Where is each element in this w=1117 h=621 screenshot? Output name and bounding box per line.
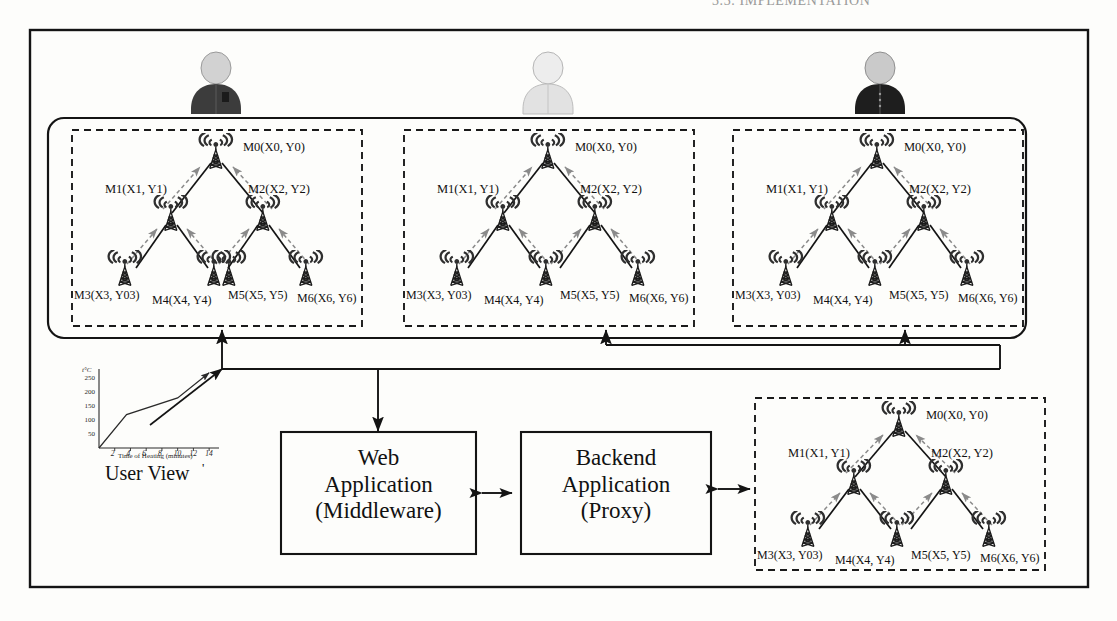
mesh-cluster-1-edges (136, 163, 300, 268)
cluster1-node-m6-label: M6(X6, Y6) (297, 291, 357, 306)
cluster3-node-m5-label: M5(X5, Y5) (889, 288, 949, 303)
cluster3-node-m4-label: M4(X4, Y4) (813, 293, 873, 308)
cluster2-node-m1-label: M1(X1, Y1) (437, 182, 499, 197)
cluster3-node-m2-label: M2(X2, Y2) (909, 182, 971, 197)
cluster1-node-m1-label: M1(X1, Y1) (105, 182, 167, 197)
bus-connectors (222, 330, 1000, 431)
chart-xtick-label: 4 (126, 449, 130, 458)
cluster1-node-m5-label: M5(X5, Y5) (228, 288, 288, 303)
cluster2-node-m2-label: M2(X2, Y2) (580, 182, 642, 197)
mesh-cluster-3-edges (797, 163, 961, 268)
cluster-backend-node-m3-label: M3(X3, Y03) (757, 548, 823, 563)
cluster2-node-m6-label: M6(X6, Y6) (629, 291, 689, 306)
chart-series-line (99, 373, 209, 448)
chart-xtick-label: 2 (111, 449, 115, 458)
user-view-caption: User View (105, 462, 190, 485)
chart-ytick-label: 50 (78, 430, 95, 438)
chart-ytick-label: 150 (78, 402, 95, 410)
cluster-backend-node-m4-label: M4(X4, Y4) (835, 553, 895, 568)
user-view-tick-mark: ' (202, 460, 204, 476)
cluster-backend-node-m5-label: M5(X5, Y5) (911, 548, 971, 563)
user-avatar-3 (855, 52, 905, 114)
backend-application-line2: Application (521, 472, 711, 499)
cluster-backend-node-m0-label: M0(X0, Y0) (926, 408, 988, 423)
cluster-backend-node-m6-label: M6(X6, Y6) (980, 551, 1040, 566)
web-application-line3: (Middleware) (281, 498, 476, 525)
user-avatar-1 (191, 52, 241, 114)
cluster-backend-node-m1-label: M1(X1, Y1) (788, 446, 850, 461)
chart-xtick-label: 14 (205, 449, 213, 458)
cluster3-node-m3-label: M3(X3, Y03) (735, 288, 801, 303)
chart-xtick-label: 12 (189, 449, 197, 458)
cluster3-node-m6-label: M6(X6, Y6) (958, 291, 1018, 306)
backend-application-line3: (Proxy) (521, 498, 711, 525)
chart-ytick-label: 200 (78, 388, 95, 396)
user-view-to-bus-arrow (150, 369, 222, 425)
web-application-line2: Application (281, 472, 476, 499)
chart-ylabel: t°C (82, 366, 91, 374)
cluster3-node-m1-label: M1(X1, Y1) (766, 182, 828, 197)
cluster1-node-m2-label: M2(X2, Y2) (248, 182, 310, 197)
chart-ytick-label: 250 (78, 374, 95, 382)
diagram-canvas: 3.3. IMPLEMENTATION (0, 0, 1117, 621)
backend-application-label: Backend Application (Proxy) (521, 445, 711, 525)
chart-xtick-label: 10 (174, 449, 182, 458)
mesh-cluster-2-edges (468, 163, 632, 268)
cluster2-node-m3-label: M3(X3, Y03) (406, 288, 472, 303)
chart-xtick-label: 6 (142, 449, 146, 458)
cluster-backend-node-m2-label: M2(X2, Y2) (931, 446, 993, 461)
cluster2-node-m4-label: M4(X4, Y4) (484, 293, 544, 308)
cluster1-node-m0-label: M0(X0, Y0) (243, 140, 305, 155)
cluster3-node-m0-label: M0(X0, Y0) (904, 140, 966, 155)
chart-xtick-label: 8 (158, 449, 162, 458)
cluster2-node-m5-label: M5(X5, Y5) (560, 288, 620, 303)
cluster1-node-m4-label: M4(X4, Y4) (152, 293, 212, 308)
chart-ytick-label: 100 (78, 416, 95, 424)
user-avatar-2 (523, 52, 573, 114)
diagram-svg (0, 0, 1117, 621)
web-application-label: Web Application (Middleware) (281, 445, 476, 525)
cluster1-node-m3-label: M3(X3, Y03) (74, 288, 140, 303)
web-application-line1: Web (281, 445, 476, 472)
user-view-chart (99, 369, 219, 451)
backend-application-line1: Backend (521, 445, 711, 472)
cluster2-node-m0-label: M0(X0, Y0) (575, 140, 637, 155)
